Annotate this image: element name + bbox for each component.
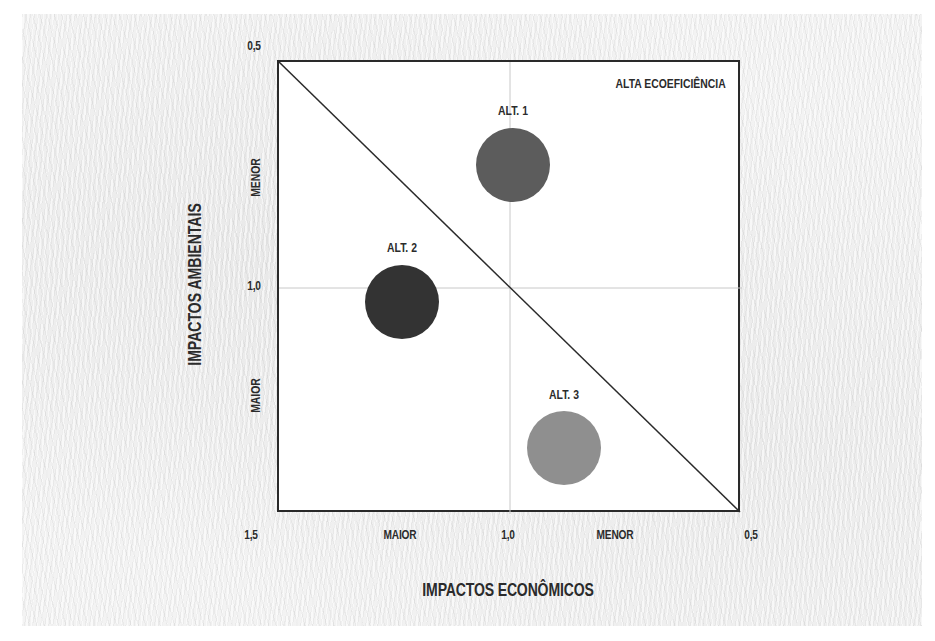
bubble-alt3: [527, 411, 601, 485]
y-qualitative-menor: MENOR: [248, 158, 263, 198]
high-ecoefficiency-label: ALTA ECOEFICIÊNCIA: [616, 76, 726, 91]
bubble-label-alt3: ALT. 3: [532, 387, 596, 402]
y-qualitative-maior: MAIOR: [248, 376, 263, 416]
y-tick-1-0: 1,0: [238, 278, 269, 293]
x-tick-0-5: 0,5: [728, 527, 775, 542]
bubble-label-alt2: ALT. 2: [370, 240, 434, 255]
x-tick-1-0: 1,0: [485, 527, 532, 542]
bubble-alt2: [365, 265, 439, 339]
x-axis-title: IMPACTOS ECONÔMICOS: [422, 580, 594, 601]
x-qualitative-maior: MAIOR: [377, 527, 424, 542]
x-tick-1-5: 1,5: [228, 527, 275, 542]
bubble-alt1: [476, 128, 550, 202]
bubble-label-alt1: ALT. 1: [481, 103, 545, 118]
y-axis-title: IMPACTOS AMBIENTAIS: [185, 199, 206, 371]
y-tick-0-5: 0,5: [238, 38, 269, 53]
x-qualitative-menor: MENOR: [592, 527, 639, 542]
